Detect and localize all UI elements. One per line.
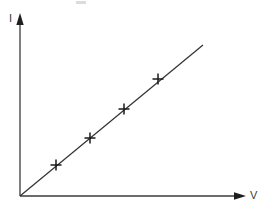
series-line-iv: [20, 45, 203, 196]
y-axis-label: I: [9, 13, 12, 24]
data-point-markers: [51, 74, 164, 171]
plot-canvas: [0, 0, 266, 207]
x-axis-label: V: [250, 190, 257, 201]
x-axis: [20, 192, 246, 199]
data-series-line: [20, 45, 203, 196]
data-point-marker-4: [153, 74, 164, 85]
iv-characteristic-figure: I V: [0, 0, 266, 207]
y-axis-arrow-up-icon: [16, 13, 23, 25]
x-axis-arrow-right-icon: [234, 192, 246, 199]
y-axis: [16, 13, 23, 196]
